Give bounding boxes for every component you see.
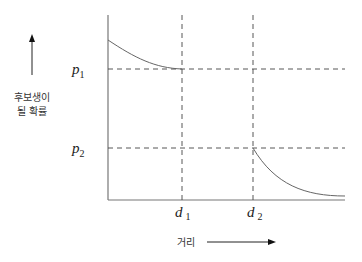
x-axis-label: 거리	[177, 237, 195, 248]
p1-label: p1	[71, 61, 85, 80]
y-axis-label-line-2: 될 확률	[17, 106, 47, 117]
d1-label: d1	[175, 204, 191, 222]
diagram-canvas: 후보생이 될 확률 p1 p2 d1 d2 거리	[0, 0, 362, 262]
y-axis-label-line-1: 후보생이	[14, 92, 50, 103]
curve-far	[253, 148, 345, 196]
d2-label: d2	[247, 204, 263, 222]
p2-label: p2	[71, 140, 85, 159]
curve-near	[108, 40, 182, 69]
